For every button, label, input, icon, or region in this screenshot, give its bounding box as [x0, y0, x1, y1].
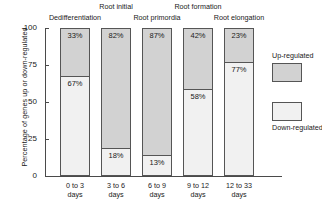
y-axis-tick-100: 100 — [0, 28, 45, 29]
y-axis-tick-mark — [45, 102, 49, 103]
y-axis-tick-label: 75 — [13, 61, 37, 69]
bar-segment-up-regulated: 82% — [102, 29, 130, 149]
stage-annotation-label: Root primordia — [114, 14, 200, 22]
bar-stack: 82%18% — [101, 28, 131, 176]
bar-segment-down-regulated: 67% — [61, 77, 89, 175]
x-axis-category-label: 12 to 33days — [213, 182, 265, 199]
stage-annotation-label: Root initial — [73, 3, 159, 11]
legend-label-up-regulated: Up-regulated — [272, 52, 322, 60]
bar-segment-value-label: 18% — [102, 152, 130, 160]
bar-stack: 23%77% — [224, 28, 254, 176]
bar-segment-value-label: 67% — [61, 80, 89, 88]
bar-segment-up-regulated: 23% — [225, 29, 253, 63]
y-axis-tick-mark — [45, 65, 49, 66]
y-axis-tick-label: 25 — [13, 135, 37, 143]
bar-segment-down-regulated: 18% — [102, 149, 130, 175]
bar-segment-value-label: 87% — [143, 32, 171, 40]
chart-legend: Up-regulated Down-regulated — [272, 52, 322, 132]
bar-group: 82%18% — [101, 28, 131, 176]
y-axis-tick-label: 50 — [13, 98, 37, 106]
bar-group: 23%77% — [224, 28, 254, 176]
bar-segment-value-label: 42% — [184, 32, 212, 40]
bar-group: 87%13% — [142, 28, 172, 176]
bar-stack: 42%58% — [183, 28, 213, 176]
bar-segment-value-label: 77% — [225, 66, 253, 74]
bar-segment-up-regulated: 42% — [184, 29, 212, 90]
y-axis-tick-0: 0 — [0, 176, 45, 177]
bar-stack: 87%13% — [142, 28, 172, 176]
bar-segment-down-regulated: 13% — [143, 156, 171, 175]
category-label-line: days — [213, 191, 265, 200]
bar-segment-value-label: 82% — [102, 32, 130, 40]
y-axis-tick-mark — [45, 28, 49, 29]
stage-annotation-label: Dedifferentiation — [32, 14, 118, 22]
bar-group: 42%58% — [183, 28, 213, 176]
x-axis-line — [45, 176, 282, 177]
bar-stack: 33%67% — [60, 28, 90, 176]
legend-label-down-regulated: Down-regulated — [272, 124, 322, 132]
y-axis-tick-label: 100 — [13, 24, 37, 32]
bar-segment-value-label: 23% — [225, 32, 253, 40]
stacked-bar-chart: Percentage of genes up or down-regulated… — [0, 0, 322, 209]
y-axis-tick-50: 50 — [0, 102, 45, 103]
y-axis-tick-25: 25 — [0, 139, 45, 140]
legend-swatch-down-regulated — [272, 102, 302, 121]
bar-segment-value-label: 58% — [184, 93, 212, 101]
y-axis-tick-label: 0 — [13, 172, 37, 180]
legend-swatch-up-regulated — [272, 63, 302, 82]
y-axis-tick-75: 75 — [0, 65, 45, 66]
bar-segment-up-regulated: 87% — [143, 29, 171, 156]
bar-segment-down-regulated: 58% — [184, 90, 212, 175]
stage-annotation-label: Root elongation — [196, 14, 282, 22]
bar-segment-value-label: 33% — [61, 32, 89, 40]
y-axis-tick-mark — [45, 139, 49, 140]
stage-annotation-label: Root formation — [155, 3, 241, 11]
bar-segment-up-regulated: 33% — [61, 29, 89, 77]
bar-segment-value-label: 13% — [143, 159, 171, 167]
bar-segment-down-regulated: 77% — [225, 63, 253, 175]
bar-group: 33%67% — [60, 28, 90, 176]
